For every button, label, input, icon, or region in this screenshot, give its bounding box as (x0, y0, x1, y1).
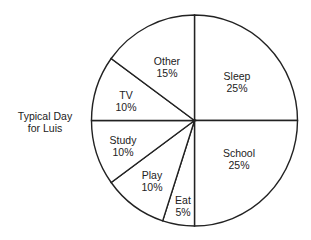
slice-label-study: Study (110, 134, 138, 146)
slice-percent-play: 10% (141, 181, 162, 193)
pie-slice-sleep (195, 15, 298, 121)
slice-percent-study: 10% (112, 146, 133, 158)
slice-percent-school: 25% (228, 159, 249, 171)
slice-percent-tv: 10% (115, 101, 136, 113)
pie-slices (92, 15, 298, 226)
pie-slice-school (195, 121, 298, 227)
slice-percent-sleep: 25% (226, 82, 247, 94)
pie-chart: Sleep25%School25%Eat5%Play10%Study10%TV1… (0, 0, 311, 240)
slice-label-eat: Eat (175, 194, 191, 206)
slice-label-sleep: Sleep (224, 70, 251, 82)
slice-label-other: Other (154, 55, 181, 67)
slice-label-school: School (223, 147, 255, 159)
slice-percent-other: 15% (156, 67, 177, 79)
slice-percent-eat: 5% (175, 206, 190, 218)
slice-label-tv: TV (119, 89, 132, 101)
slice-label-play: Play (142, 169, 163, 181)
